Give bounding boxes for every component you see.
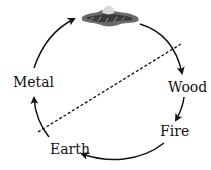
arrow-metal-to-top bbox=[34, 19, 74, 68]
arrow-wood-to-fire bbox=[176, 97, 184, 120]
label-wood: Wood bbox=[168, 80, 207, 94]
label-fire: Fire bbox=[160, 124, 189, 138]
label-earth: Earth bbox=[50, 142, 90, 156]
label-metal: Metal bbox=[13, 75, 54, 89]
water-mountain-icon bbox=[82, 6, 139, 27]
arrow-earth-to-metal bbox=[34, 98, 49, 137]
arrow-fire-to-earth bbox=[82, 143, 164, 159]
dashed-divider bbox=[38, 44, 181, 132]
